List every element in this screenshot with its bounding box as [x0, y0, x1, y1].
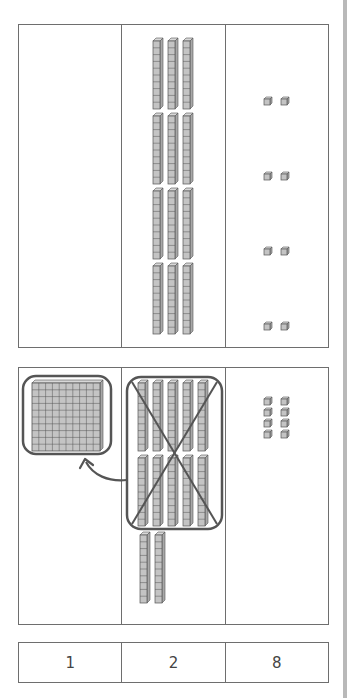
crossed-out-tens-rod-icon	[198, 455, 208, 526]
tens-rod-icon	[183, 113, 193, 184]
remaining-tens-rod-icon	[155, 532, 165, 603]
crossed-out-tens-rod-icon	[153, 380, 163, 451]
unit-cube-icon	[264, 419, 272, 427]
remaining-tens-rod-icon	[140, 532, 150, 603]
tens-rod-icon	[168, 188, 178, 259]
tens-rod-icon	[153, 38, 163, 109]
unit-cube-icon	[264, 97, 272, 105]
tens-rod-icon	[168, 38, 178, 109]
unit-cube-icon	[281, 419, 289, 427]
crossed-out-tens-rod-icon	[153, 455, 163, 526]
scrollbar[interactable]	[343, 0, 347, 698]
unit-cube-icon	[264, 322, 272, 330]
unit-cube-icon	[281, 97, 289, 105]
tens-rod-icon	[168, 263, 178, 334]
tens-rod-icon	[153, 113, 163, 184]
crossed-out-tens-rod-icon	[138, 455, 148, 526]
crossed-out-tens-rod-icon	[168, 455, 178, 526]
crossed-out-tens-rod-icon	[198, 380, 208, 451]
hundreds-flat-icon	[32, 380, 103, 451]
crossed-out-tens-rod-icon	[168, 380, 178, 451]
tens-rod-icon	[153, 263, 163, 334]
unit-cube-icon	[264, 430, 272, 438]
crossed-out-tens-rod-icon	[138, 380, 148, 451]
unit-cube-icon	[281, 322, 289, 330]
unit-cube-icon	[281, 430, 289, 438]
unit-cube-icon	[281, 397, 289, 405]
crossed-out-tens-rod-icon	[183, 380, 193, 451]
crossed-out-tens-rod-icon	[183, 455, 193, 526]
unit-cube-icon	[281, 172, 289, 180]
unit-cube-icon	[264, 172, 272, 180]
tens-rod-icon	[183, 188, 193, 259]
unit-cube-icon	[264, 408, 272, 416]
tens-rod-icon	[168, 113, 178, 184]
base-ten-blocks-layer	[0, 0, 347, 698]
unit-cube-icon	[281, 247, 289, 255]
tens-rod-icon	[183, 38, 193, 109]
unit-cube-icon	[281, 408, 289, 416]
tens-rod-icon	[153, 188, 163, 259]
unit-cube-icon	[264, 397, 272, 405]
tens-rod-icon	[183, 263, 193, 334]
unit-cube-icon	[264, 247, 272, 255]
